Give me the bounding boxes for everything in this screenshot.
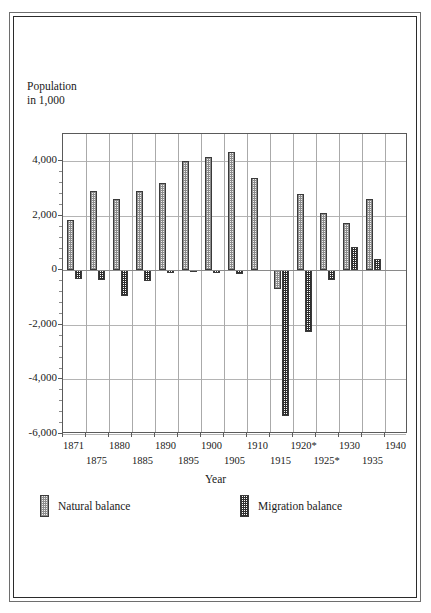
bar-migration-1875 <box>98 270 105 280</box>
x-tick-mark-1915 <box>269 433 270 437</box>
y-minor-tick <box>59 171 62 172</box>
legend-label-migration: Migration balance <box>258 500 342 512</box>
bar-natural-1880 <box>113 199 120 270</box>
x-tick-mark-1880 <box>108 433 109 437</box>
x-tick-mark-1905 <box>223 433 224 437</box>
chart-legend: Natural balance Migration balance <box>0 500 431 530</box>
x-tick-mark-1900 <box>200 433 201 437</box>
y-minor-tick <box>59 422 62 423</box>
y-minor-tick <box>59 346 62 347</box>
gridline-x-1925* <box>316 134 317 432</box>
bar-natural-1910 <box>251 178 258 271</box>
bar-natural-1900 <box>205 157 212 270</box>
x-tick-label-1940: 1940 <box>373 440 419 451</box>
x-tick-label-1880: 1880 <box>97 440 143 451</box>
gridline-x-1940 <box>385 134 386 432</box>
y-minor-tick <box>59 313 62 314</box>
legend-label-natural: Natural balance <box>58 500 130 512</box>
y-tick-mark--4000 <box>58 378 62 379</box>
gridline-y--2000 <box>63 325 406 326</box>
bar-natural-1905 <box>228 152 235 271</box>
gridline-x-1930 <box>339 134 340 432</box>
y-minor-tick <box>59 182 62 183</box>
x-tick-label-1900: 1900 <box>189 440 235 451</box>
y-minor-tick <box>59 248 62 249</box>
x-tick-label-1905: 1905 <box>212 455 258 466</box>
bar-natural-1895 <box>182 161 189 270</box>
bar-migration-1935 <box>374 259 381 270</box>
gridline-x-1900 <box>201 134 202 432</box>
x-tick-label-1885: 1885 <box>120 455 166 466</box>
y-tick-label--4000: -4,000 <box>5 371 57 383</box>
gridline-x-1895 <box>178 134 179 432</box>
x-tick-label-1875: 1875 <box>74 455 120 466</box>
bar-natural-1890 <box>159 183 166 270</box>
x-tick-mark-1930 <box>338 433 339 437</box>
plot-area <box>62 133 407 433</box>
x-tick-mark-1885 <box>131 433 132 437</box>
x-tick-label-1910: 1910 <box>235 440 281 451</box>
gridline-x-1890 <box>155 134 156 432</box>
y-minor-tick <box>59 226 62 227</box>
legend-swatch-migration <box>240 495 249 517</box>
y-minor-tick <box>59 368 62 369</box>
x-tick-mark-1925* <box>315 433 316 437</box>
x-tick-mark-1895 <box>177 433 178 437</box>
x-tick-label-1920*: 1920* <box>281 440 327 451</box>
x-tick-mark-1920* <box>292 433 293 437</box>
x-tick-label-1930: 1930 <box>327 440 373 451</box>
bar-natural-1885 <box>136 191 143 270</box>
gridline-y--6000 <box>63 434 406 435</box>
x-tick-label-1890: 1890 <box>143 440 189 451</box>
gridline-x-1920* <box>293 134 294 432</box>
y-tick-label--2000: -2,000 <box>5 317 57 329</box>
legend-item-migration-balance: Migration balance <box>240 500 342 512</box>
x-tick-mark-1935 <box>361 433 362 437</box>
y-minor-tick <box>59 335 62 336</box>
x-tick-label-1871: 1871 <box>51 440 97 451</box>
y-tick-label-4000: 4,000 <box>5 153 57 165</box>
y-minor-tick <box>59 357 62 358</box>
y-minor-tick <box>59 280 62 281</box>
bar-natural-1935 <box>366 199 373 270</box>
bar-natural-1871 <box>67 220 74 270</box>
y-minor-tick <box>59 411 62 412</box>
x-tick-mark-1890 <box>154 433 155 437</box>
legend-item-natural-balance: Natural balance <box>40 500 130 512</box>
gridline-x-1880 <box>109 134 110 432</box>
y-tick-mark-4000 <box>58 160 62 161</box>
gridline-y--4000 <box>63 379 406 380</box>
y-tick-mark-2000 <box>58 215 62 216</box>
gridline-x-1935 <box>362 134 363 432</box>
y-minor-tick <box>59 389 62 390</box>
x-axis-title: Year <box>0 473 431 487</box>
y-minor-tick <box>59 291 62 292</box>
legend-swatch-natural <box>40 495 49 517</box>
bar-natural-1920* <box>297 194 304 270</box>
bar-natural-1915 <box>274 270 281 289</box>
y-minor-tick <box>59 302 62 303</box>
gridline-x-1875 <box>86 134 87 432</box>
y-axis-title: Population in 1,000 <box>27 80 77 107</box>
bar-migration-1915 <box>282 270 289 416</box>
x-tick-mark-1871 <box>62 433 63 437</box>
y-minor-tick <box>59 400 62 401</box>
y-tick-label-2000: 2,000 <box>5 208 57 220</box>
y-tick-label--6000: -6,000 <box>5 426 57 438</box>
x-tick-mark-1910 <box>246 433 247 437</box>
x-tick-mark-1875 <box>85 433 86 437</box>
x-tick-label-1935: 1935 <box>350 455 396 466</box>
bar-migration-1925* <box>328 270 335 280</box>
x-tick-label-1915: 1915 <box>258 455 304 466</box>
x-tick-label-1895: 1895 <box>166 455 212 466</box>
zero-baseline <box>63 270 406 271</box>
x-tick-mark-1940 <box>384 433 385 437</box>
y-tick-label-0: 0 <box>5 262 57 274</box>
gridline-x-1910 <box>247 134 248 432</box>
y-tick-mark-0 <box>58 269 62 270</box>
bar-migration-1885 <box>144 270 151 281</box>
bar-migration-1871 <box>75 270 82 278</box>
bar-natural-1925* <box>320 213 327 270</box>
bar-migration-1920* <box>305 270 312 331</box>
bar-migration-1880 <box>121 270 128 296</box>
